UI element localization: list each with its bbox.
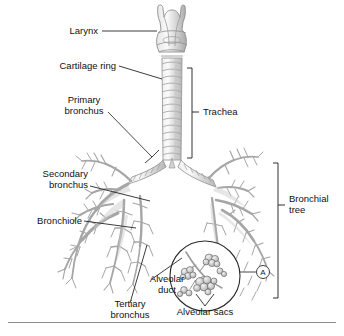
label-cartilage-ring: Cartilage ring (12, 60, 116, 71)
primary-bronchi-icon (128, 158, 216, 187)
respiratory-system-diagram: A (0, 0, 344, 336)
bracket-trachea (187, 68, 199, 158)
bottom-divider (8, 322, 336, 323)
inset-marker-a: A (257, 266, 270, 279)
label-alveolar-sacs: Alveolar sacs (161, 306, 249, 317)
svg-text:A: A (260, 268, 266, 277)
bracket-bronchial-tree (273, 163, 285, 298)
label-primary-bronchus: Primary bronchus (44, 94, 124, 116)
label-bronchial-tree: Bronchial tree (289, 193, 343, 215)
larynx-icon (157, 5, 187, 56)
label-trachea: Trachea (203, 106, 263, 117)
trachea-icon (162, 58, 182, 160)
label-bronchiole: Bronchiole (6, 215, 82, 226)
label-tertiary-bronchus: Tertiary bronchus (90, 298, 170, 320)
label-larynx: Larynx (26, 25, 98, 36)
label-alveolar-duct: Alveolar duct (140, 273, 194, 295)
label-secondary-bronchus: Secondary bronchus (6, 168, 88, 190)
